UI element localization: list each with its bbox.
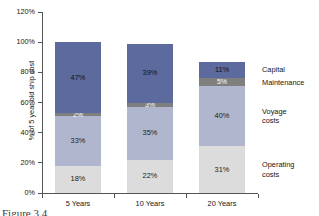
legend-entry[interactable]: Voyagecosts <box>262 107 287 125</box>
figure-caption: Figure 3.4 <box>2 207 47 216</box>
bar-segment[interactable]: 5% <box>199 78 245 86</box>
x-axis-category-label: 5 Years <box>38 199 118 208</box>
y-axis-tick: 40% <box>0 128 42 138</box>
bar-segment[interactable]: 18% <box>55 166 101 193</box>
bar-stack[interactable]: 31%40%5%11% <box>199 12 245 193</box>
bar-segment[interactable]: 11% <box>199 62 245 79</box>
y-axis-tick-label: 40% <box>21 128 35 138</box>
legend-entry[interactable]: Operatingcosts <box>262 160 294 178</box>
bar-stack[interactable]: 18%33%2%47% <box>55 12 101 193</box>
bar-segment-value-label: 33% <box>55 137 101 144</box>
plot-area: 18%33%2%47%22%35%3%39%31%40%5%11% <box>42 12 258 193</box>
x-axis-tick-mark <box>258 194 259 198</box>
legend-entry-label: Voyage <box>262 107 287 116</box>
bar-segment[interactable]: 22% <box>127 160 173 193</box>
figure-root: % of 5 year old ship cost 0%20%40%60%80%… <box>0 0 319 216</box>
y-axis-tick: 80% <box>0 67 42 77</box>
y-axis-tick-label: 80% <box>21 67 35 77</box>
bar-segment-value-label: 31% <box>199 166 245 173</box>
legend-entry-label: Maintenance <box>262 78 304 87</box>
bar-segment-value-label: 35% <box>127 129 173 136</box>
x-axis-line <box>42 193 258 194</box>
bar-stack[interactable]: 22%35%3%39% <box>127 12 173 193</box>
bar-segment[interactable]: 33% <box>55 116 101 166</box>
x-axis-category-label: 20 Years <box>182 199 262 208</box>
bar-segment[interactable]: 39% <box>127 44 173 103</box>
x-axis-tick-mark <box>42 194 43 198</box>
bar-segment[interactable]: 2% <box>55 113 101 116</box>
y-axis-tick: 100% <box>0 37 42 47</box>
bar-segment[interactable]: 3% <box>127 103 173 108</box>
y-axis-tick-label: 120% <box>17 7 35 17</box>
x-axis-tick-mark <box>114 194 115 198</box>
bar-segment-value-label: 5% <box>199 78 245 85</box>
legend-entry-label: costs <box>262 116 287 125</box>
y-axis-tick: 0% <box>0 188 42 198</box>
y-axis-tick-label: 20% <box>21 158 35 168</box>
legend-entry[interactable]: Capital <box>262 65 285 74</box>
legend-entry-label: Operating <box>262 160 294 169</box>
x-axis-category-label: 10 Years <box>110 199 190 208</box>
y-axis-tick: 60% <box>0 98 42 108</box>
legend-entry[interactable]: Maintenance <box>262 78 304 87</box>
y-axis-tick-label: 100% <box>17 37 35 47</box>
y-axis-tick-label: 0% <box>25 188 35 198</box>
bar-segment-value-label: 11% <box>199 66 245 73</box>
bar-segment-value-label: 47% <box>55 74 101 81</box>
legend-entry-label: costs <box>262 170 294 179</box>
bar-segment-value-label: 40% <box>199 112 245 119</box>
y-axis-tick: 120% <box>0 7 42 17</box>
bar-segment-value-label: 22% <box>127 172 173 179</box>
y-axis-tick: 20% <box>0 158 42 168</box>
y-axis-tick-label: 60% <box>21 98 35 108</box>
bar-segment[interactable]: 40% <box>199 86 245 146</box>
bar-segment[interactable]: 31% <box>199 146 245 193</box>
bar-segment-value-label: 39% <box>127 69 173 76</box>
bar-segment-value-label: 18% <box>55 175 101 182</box>
x-axis-tick-mark <box>186 194 187 198</box>
legend-entry-label: Capital <box>262 65 285 74</box>
bar-segment[interactable]: 35% <box>127 107 173 160</box>
bar-segment[interactable]: 47% <box>55 42 101 113</box>
